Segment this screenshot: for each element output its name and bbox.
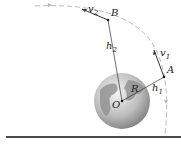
orbit-diagram: B v2 h2 v1 A h1 R O (0, 0, 181, 144)
center-label: O (112, 100, 120, 110)
center-dot (121, 100, 123, 102)
v1-sub: 1 (166, 53, 170, 61)
v2-label: v2 (88, 4, 98, 17)
point-a-label: A (167, 65, 174, 75)
orbit-arrow-icon (48, 3, 52, 7)
diagram-canvas (0, 0, 181, 144)
v2-sub: 2 (94, 9, 98, 17)
radius-label: R (131, 84, 139, 94)
h1-label: h1 (152, 83, 163, 96)
point-b-label: B (111, 8, 118, 18)
orbit-arrow-icon (164, 100, 168, 104)
point-a-dot (163, 76, 166, 79)
point-b-dot (107, 19, 110, 22)
h1-sub: 1 (158, 88, 162, 96)
v1-label: v1 (160, 48, 170, 61)
h2-label: h2 (106, 41, 117, 54)
h2-sub: 2 (112, 46, 116, 54)
